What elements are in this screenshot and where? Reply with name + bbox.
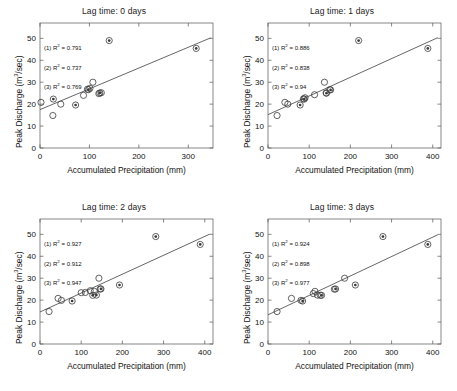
r2-value: 0.769 [67,84,82,90]
data-point-center-dot [299,104,302,107]
x-tick-label: 0 [38,348,43,357]
data-point-center-dot [329,89,332,92]
data-point-open [342,275,348,281]
y-axis-label-pre: Peak Discharge (m [14,77,24,148]
x-tick-label: 300 [157,348,171,357]
r2-annotation-3: (3) R2 = 0.947 [44,279,82,286]
y-tick-label: 50 [255,230,264,239]
x-axis-label: Accumulated Precipitation (mm) [268,165,441,175]
y-tick-label: 10 [27,318,36,327]
y-tick-label: 20 [27,100,36,109]
y-axis-label-post: /sec) [14,252,24,270]
y-tick-label: 50 [255,34,264,43]
data-point-center-dot [426,47,429,50]
x-tick-label: 200 [132,152,146,161]
data-point-open [274,112,280,118]
r2-annotation-3: (3) R2 = 0.769 [44,83,82,90]
y-tick-label: 20 [27,296,36,305]
data-point-open [46,308,52,314]
x-tick-label: 100 [83,152,97,161]
data-point-center-dot [382,235,385,238]
r2-equals: = [288,84,295,90]
r2-equals: = [60,84,67,90]
y-tick-label: 0 [32,340,37,349]
r2-key: (2) R [44,261,57,267]
data-point-center-dot [320,294,323,297]
data-point-center-dot [74,104,77,107]
r2-key: (1) R [272,45,285,51]
r2-value: 0.927 [67,241,82,247]
data-point-center-dot [426,243,429,246]
y-tick-label: 10 [255,318,264,327]
y-tick-label: 30 [255,78,264,87]
r2-equals: = [288,45,295,51]
panel-lag-2: Lag time: 2 days 01002003004000102030405… [0,196,228,391]
x-tick-label: 100 [303,152,317,161]
r2-key: (2) R [272,261,285,267]
r2-value: 0.94 [295,84,307,90]
r2-annotations: (1) R2 = 0.924(2) R2 = 0.898(3) R2 = 0.9… [272,240,310,299]
y-axis-label: Peak Discharge (m3/sec) [241,56,252,149]
data-point-center-dot [334,288,337,291]
y-tick-label: 0 [260,340,265,349]
y-tick-label: 50 [27,34,36,43]
data-point-center-dot [325,92,328,95]
r2-equals: = [60,261,67,267]
r2-key: (2) R [44,65,57,71]
y-axis-label-pre: Peak Discharge (m [242,77,252,148]
r2-equals: = [288,241,295,247]
y-tick-label: 40 [255,252,264,261]
data-point-center-dot [195,47,198,50]
y-axis-label: Peak Discharge (m3/sec) [241,252,252,345]
data-point-center-dot [357,39,360,42]
r2-key: (3) R [44,84,57,90]
r2-annotations: (1) R2 = 0.791(2) R2 = 0.737(3) R2 = 0.7… [44,44,82,103]
y-axis-label-exponent: 3 [13,74,19,77]
r2-key: (3) R [272,280,285,286]
x-tick-label: 400 [426,348,440,357]
y-tick-label: 30 [27,274,36,283]
panel-lag-0: Lag time: 0 days 010020030001020304050(1… [0,0,228,195]
x-tick-label: 0 [266,348,271,357]
r2-annotation-1: (1) R2 = 0.927 [44,240,82,247]
data-point-center-dot [98,92,101,95]
data-point-center-dot [354,284,357,287]
r2-equals: = [288,261,295,267]
data-point-center-dot [87,88,90,91]
y-axis-label: Peak Discharge (m3/sec) [13,252,24,345]
r2-value: 0.977 [295,280,310,286]
r2-value: 0.912 [67,261,82,267]
data-point-center-dot [199,243,202,246]
r2-annotation-3: (3) R2 = 0.94 [272,83,310,90]
data-point-center-dot [95,294,98,297]
x-tick-label: 0 [38,152,43,161]
r2-key: (2) R [272,65,285,71]
x-tick-label: 300 [385,152,399,161]
r2-annotations: (1) R2 = 0.927(2) R2 = 0.912(3) R2 = 0.9… [44,240,82,299]
y-tick-label: 10 [27,122,36,131]
r2-annotation-1: (1) R2 = 0.886 [272,44,310,51]
x-tick-label: 200 [344,348,358,357]
y-tick-label: 50 [27,230,36,239]
y-axis-label: Peak Discharge (m3/sec) [13,56,24,149]
r2-annotation-2: (2) R2 = 0.737 [44,64,82,71]
y-tick-label: 30 [27,78,36,87]
y-tick-label: 40 [255,56,264,65]
x-tick-label: 400 [198,348,212,357]
r2-value: 0.947 [67,280,82,286]
r2-key: (3) R [44,280,57,286]
r2-equals: = [60,241,67,247]
x-axis-label: Accumulated Precipitation (mm) [40,361,213,371]
r2-value: 0.791 [67,45,82,51]
y-axis-label-post: /sec) [242,252,252,270]
data-point-center-dot [154,235,157,238]
y-tick-label: 40 [27,56,36,65]
y-tick-label: 20 [255,296,264,305]
r2-value: 0.838 [295,65,310,71]
r2-annotation-1: (1) R2 = 0.791 [44,44,82,51]
r2-value: 0.886 [295,45,310,51]
data-point-open [50,112,56,118]
x-tick-label: 300 [385,348,399,357]
panel-lag-1: Lag time: 1 days 01002003004000102030405… [228,0,456,195]
y-axis-label-pre: Peak Discharge (m [242,273,252,344]
